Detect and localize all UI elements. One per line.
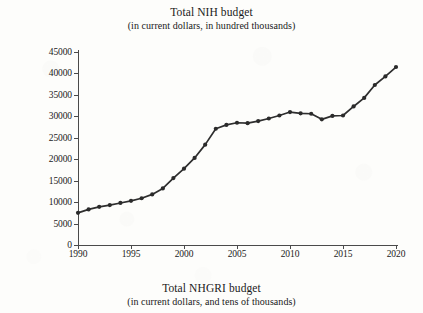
x-tick-label: 2010: [267, 249, 313, 259]
y-tick-label: 30000: [16, 111, 72, 121]
data-point-marker: [171, 176, 175, 180]
data-point-marker: [140, 196, 144, 200]
y-tick-label: 10000: [16, 197, 72, 207]
y-tick-label: 40000: [16, 68, 72, 78]
data-point-marker: [182, 167, 186, 171]
y-tick-label: 25000: [16, 133, 72, 143]
x-tick-mark: [184, 245, 185, 249]
data-point-marker: [288, 110, 292, 114]
data-point-marker: [256, 119, 260, 123]
x-tick-mark: [237, 245, 238, 249]
figure-nih-budget: Total NIH budget (in current dollars, in…: [0, 0, 423, 313]
data-point-marker: [341, 113, 345, 117]
data-point-marker: [277, 113, 281, 117]
data-point-marker: [214, 127, 218, 131]
y-tick-label: 45000: [16, 47, 72, 57]
y-tick-label: 35000: [16, 90, 72, 100]
figure-caption-sub: (in current dollars, and tens of thousan…: [0, 296, 423, 309]
chart-title: Total NIH budget: [0, 5, 423, 20]
x-tick-mark: [131, 245, 132, 249]
x-tick-mark: [396, 245, 397, 249]
data-point-marker: [373, 83, 377, 87]
x-tick-mark: [343, 245, 344, 249]
data-point-marker: [362, 96, 366, 100]
figure-caption: Total NHGRI budget: [0, 281, 423, 296]
plot-area: [78, 52, 396, 245]
x-tick-mark: [78, 245, 79, 249]
data-point-marker: [267, 116, 271, 120]
data-point-marker: [320, 117, 324, 121]
data-point-marker: [118, 201, 122, 205]
data-point-marker: [129, 199, 133, 203]
chart-subtitle: (in current dollars, in hundred thousand…: [0, 20, 423, 33]
data-point-marker: [330, 114, 334, 118]
data-point-marker: [246, 121, 250, 125]
data-point-marker: [150, 192, 154, 196]
data-point-marker: [193, 156, 197, 160]
data-point-marker: [309, 112, 313, 116]
data-point-marker: [76, 211, 80, 215]
data-point-marker: [352, 104, 356, 108]
data-point-marker: [235, 121, 239, 125]
data-point-marker: [383, 74, 387, 78]
x-tick-label: 2005: [214, 249, 260, 259]
data-series-line: [78, 52, 396, 245]
data-point-marker: [224, 123, 228, 127]
chart-title-block: Total NIH budget (in current dollars, in…: [0, 5, 423, 33]
y-tick-label: 5000: [16, 219, 72, 229]
data-point-marker: [108, 203, 112, 207]
data-point-marker: [394, 65, 398, 69]
data-point-marker: [299, 111, 303, 115]
data-point-marker: [203, 143, 207, 147]
x-tick-mark: [290, 245, 291, 249]
data-point-marker: [87, 207, 91, 211]
data-point-marker: [97, 205, 101, 209]
x-tick-label: 1995: [108, 249, 154, 259]
y-tick-label: 15000: [16, 176, 72, 186]
x-tick-label: 2000: [161, 249, 207, 259]
x-tick-label: 2015: [320, 249, 366, 259]
data-point-marker: [161, 186, 165, 190]
y-tick-label: 20000: [16, 154, 72, 164]
figure-caption-block: Total NHGRI budget (in current dollars, …: [0, 281, 423, 309]
x-tick-label: 2020: [373, 249, 419, 259]
x-axis-line: [78, 245, 398, 246]
series-polyline: [78, 67, 396, 213]
x-tick-label: 1990: [55, 249, 101, 259]
